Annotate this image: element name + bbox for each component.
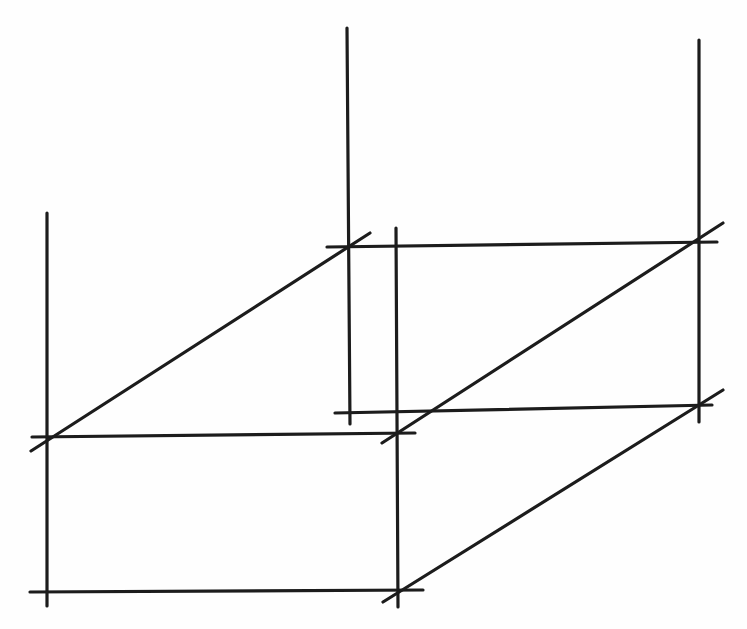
bottom-front-horizontal-edge	[30, 590, 423, 592]
top-right-depth-edge	[382, 223, 723, 443]
bottom-back-horizontal-edge	[335, 405, 712, 413]
parallelepiped-wireframe-figure	[0, 0, 747, 629]
front-right-vertical-edge	[396, 228, 398, 607]
scanned-figure-page	[0, 0, 747, 629]
bottom-right-depth-edge	[383, 390, 723, 602]
back-left-vertical-edge	[347, 28, 350, 424]
top-back-horizontal-edge	[327, 242, 717, 247]
top-front-horizontal-edge	[32, 433, 415, 437]
top-left-depth-edge	[31, 233, 370, 451]
